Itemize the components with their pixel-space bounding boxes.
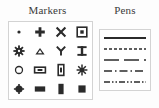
- gear-marker[interactable]: [9, 41, 30, 60]
- filled-wide-rect-marker[interactable]: [30, 80, 51, 99]
- starburst-marker[interactable]: [71, 61, 92, 80]
- dash-dot-pen[interactable]: [103, 67, 147, 74]
- filled-square-marker[interactable]: [71, 80, 92, 99]
- dot-marker[interactable]: [9, 22, 30, 41]
- tall-rect-outline-marker[interactable]: [51, 61, 72, 80]
- pens-panel-title: Pens: [96, 4, 154, 16]
- square-in-square-marker[interactable]: [71, 22, 92, 41]
- pens-panel: [99, 29, 151, 91]
- wide-rect-outline-marker[interactable]: [30, 61, 51, 80]
- triangle-marker[interactable]: [30, 41, 51, 60]
- palette-screen: Markers Pens: [0, 0, 159, 108]
- long-dash-pen[interactable]: [103, 56, 147, 63]
- filled-circle-marker[interactable]: [9, 80, 30, 99]
- filled-tall-rect-marker[interactable]: [51, 80, 72, 99]
- dashed-pen[interactable]: [103, 46, 147, 53]
- open-circle-marker[interactable]: [9, 61, 30, 80]
- i-beam-marker[interactable]: [71, 41, 92, 60]
- y-fork-marker[interactable]: [51, 41, 72, 60]
- x-cross-marker[interactable]: [51, 22, 72, 41]
- pens-list: [100, 30, 150, 90]
- solid-pen[interactable]: [103, 35, 147, 42]
- markers-panel: [8, 21, 93, 100]
- markers-panel-title: Markers: [0, 4, 95, 16]
- dash-dot-dot-pen[interactable]: [103, 78, 147, 85]
- markers-grid: [9, 22, 92, 99]
- plus-cross-marker[interactable]: [30, 22, 51, 41]
